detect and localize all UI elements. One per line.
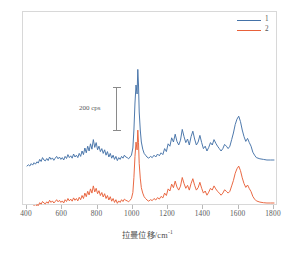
series-layer bbox=[27, 69, 274, 206]
x-tick-label: 800 bbox=[91, 209, 103, 218]
x-axis-title-superscript: -1 bbox=[168, 229, 173, 235]
legend-swatch-icon bbox=[237, 30, 261, 31]
x-axis-title: 拉曼位移/cm-1 bbox=[0, 228, 295, 240]
legend-swatch-icon bbox=[237, 20, 261, 21]
plot-svg bbox=[23, 12, 278, 206]
series-line-1 bbox=[27, 69, 274, 166]
x-tick-label: 600 bbox=[55, 209, 67, 218]
legend-label: 1 bbox=[265, 16, 269, 23]
legend-label: 2 bbox=[265, 26, 269, 33]
x-tick-label: 1000 bbox=[124, 209, 140, 218]
scale-bar-icon bbox=[116, 87, 117, 131]
series-line-2 bbox=[27, 130, 274, 206]
x-tick-label: 400 bbox=[20, 209, 32, 218]
raman-spectrum-chart: 40060080010001200140016001800 拉曼位移/cm-1 … bbox=[0, 0, 295, 254]
x-tick-label: 1600 bbox=[230, 209, 246, 218]
plot-area bbox=[22, 11, 277, 205]
x-tick-label: 1200 bbox=[159, 209, 175, 218]
legend: 12 bbox=[237, 15, 281, 35]
x-tick-label: 1800 bbox=[265, 209, 281, 218]
legend-item[interactable]: 2 bbox=[237, 25, 281, 35]
scale-bar-label: 200 cps bbox=[79, 104, 101, 112]
x-tick-label: 1400 bbox=[195, 209, 211, 218]
legend-item[interactable]: 1 bbox=[237, 15, 281, 25]
x-axis-title-text: 拉曼位移/cm bbox=[122, 231, 168, 240]
